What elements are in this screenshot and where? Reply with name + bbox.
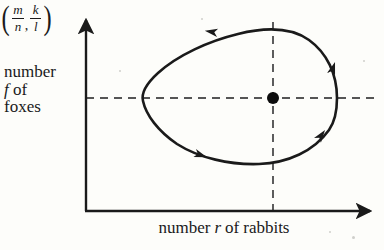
x-axis-label-word-2: rabbits (241, 218, 291, 237)
orbit-arrow-bottom (193, 149, 208, 161)
y-axis-label-line-1: number (4, 63, 82, 81)
x-axis-label-of: of (223, 218, 241, 237)
plot-canvas (0, 0, 384, 250)
orbit-arrow-top (204, 27, 218, 37)
y-axis-label: number f of foxes (4, 63, 82, 116)
y-axis-symbol: f (4, 80, 9, 99)
equilibrium-point-dot (267, 92, 279, 104)
x-axis-symbol: r (212, 218, 223, 237)
y-axis-label-line-3: foxes (4, 98, 82, 116)
x-axis-label-word-1: number (156, 218, 212, 237)
x-axis-label: numberrofrabbits (96, 218, 352, 238)
close-paren: ) (44, 5, 52, 32)
phase-plane-figure: number f of foxes numberrofrabbits ( m n… (0, 0, 384, 250)
y-axis-label-of: of (13, 80, 27, 99)
y-axis-label-line-2: f of (4, 81, 82, 99)
open-paren: ( (2, 5, 10, 32)
orbit-curve (143, 30, 337, 164)
